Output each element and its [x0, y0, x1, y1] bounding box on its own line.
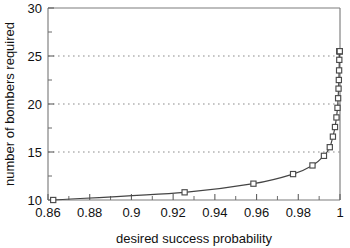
x-tick-label: 0.98 — [286, 205, 311, 220]
y-tick-label: 20 — [28, 97, 42, 112]
data-point-marker — [336, 96, 341, 101]
data-point-marker — [290, 171, 295, 176]
y-tick-label: 30 — [28, 1, 42, 16]
x-tick-label: 0.94 — [202, 205, 227, 220]
y-tick-label: 10 — [28, 193, 42, 208]
data-point-marker — [337, 68, 342, 73]
chart-svg: 0.860.880.90.920.940.960.981 1015202530 … — [0, 0, 350, 248]
data-point-marker — [310, 163, 315, 168]
data-point-marker — [336, 86, 341, 91]
x-tick-label: 0.92 — [160, 205, 185, 220]
y-axis-title: number of bombers required — [2, 22, 17, 186]
x-tick-label: 0.88 — [77, 205, 102, 220]
data-point-marker — [336, 77, 341, 82]
data-point-marker — [334, 115, 339, 120]
data-point-marker — [321, 153, 326, 158]
x-tick-label: 0.96 — [244, 205, 269, 220]
x-tick-label: 1 — [336, 205, 343, 220]
data-point-marker — [327, 145, 332, 150]
data-point-marker — [332, 124, 337, 129]
data-point-marker — [251, 181, 256, 186]
y-tick-label: 25 — [28, 49, 42, 64]
data-point-marker — [330, 134, 335, 139]
data-point-marker — [337, 57, 342, 62]
x-axis-title: desired success probability — [116, 231, 273, 246]
data-point-marker — [337, 49, 342, 54]
data-point-marker — [51, 197, 56, 202]
y-tick-label: 15 — [28, 145, 42, 160]
data-point-marker — [335, 105, 340, 110]
chart-figure: 0.860.880.90.920.940.960.981 1015202530 … — [0, 0, 350, 248]
data-point-marker — [182, 190, 187, 195]
x-tick-label: 0.9 — [122, 205, 140, 220]
